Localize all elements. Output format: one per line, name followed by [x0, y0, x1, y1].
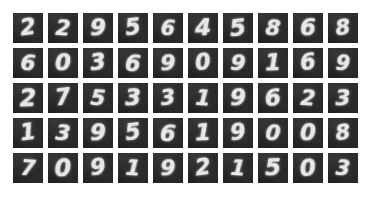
digit-glyph: 2 [188, 153, 218, 183]
digit-glyph: 6 [293, 13, 323, 43]
digit-glyph: 2 [13, 83, 43, 113]
digit-glyph: 8 [328, 118, 358, 148]
digit-tile: 0 [258, 118, 288, 148]
digit-glyph: 5 [223, 13, 253, 43]
digit-tile: 2 [13, 13, 43, 43]
digit-tile: 1 [13, 118, 43, 148]
digit-tile: 5 [118, 118, 148, 148]
digit-grid-figure: 2295645868603690916927533196231395619008… [0, 0, 373, 203]
digit-tile: 6 [293, 13, 323, 43]
digit-glyph: 9 [83, 13, 113, 43]
digit-glyph: 1 [188, 118, 218, 148]
digit-tile: 2 [188, 153, 218, 183]
digit-tile: 3 [83, 48, 113, 78]
digit-glyph: 5 [118, 13, 148, 43]
digit-glyph: 5 [118, 118, 148, 148]
digit-glyph: 6 [118, 48, 148, 78]
digit-tile: 9 [223, 48, 253, 78]
digit-glyph: 3 [328, 83, 358, 113]
digit-tile: 9 [153, 153, 183, 183]
digit-tile: 9 [328, 48, 358, 78]
digit-tile: 6 [153, 118, 183, 148]
digit-tile: 5 [118, 13, 148, 43]
digit-tile: 0 [48, 153, 78, 183]
digit-glyph: 1 [258, 48, 288, 78]
digit-glyph: 4 [188, 13, 218, 43]
digit-glyph: 9 [83, 118, 113, 148]
digit-glyph: 2 [48, 13, 78, 43]
digit-glyph: 9 [153, 153, 183, 183]
digit-tile: 9 [153, 48, 183, 78]
digit-tile: 6 [153, 13, 183, 43]
digit-glyph: 3 [83, 48, 113, 78]
digit-glyph: 3 [328, 153, 358, 183]
digit-glyph: 5 [258, 153, 288, 183]
digit-tile: 3 [48, 118, 78, 148]
digit-glyph: 9 [223, 118, 253, 148]
digit-tile: 1 [188, 83, 218, 113]
digit-glyph: 0 [188, 48, 218, 78]
digit-grid: 2295645868603690916927533196231395619008… [13, 13, 358, 183]
digit-glyph: 9 [223, 83, 253, 113]
digit-glyph: 2 [13, 13, 43, 43]
digit-tile: 1 [188, 118, 218, 148]
digit-tile: 1 [223, 153, 253, 183]
digit-tile: 3 [118, 83, 148, 113]
digit-tile: 6 [13, 48, 43, 78]
digit-glyph: 9 [223, 48, 253, 78]
digit-tile: 3 [328, 153, 358, 183]
digit-glyph: 0 [293, 153, 323, 183]
digit-tile: 8 [258, 13, 288, 43]
digit-glyph: 2 [293, 83, 323, 113]
digit-glyph: 6 [258, 83, 288, 113]
digit-tile: 3 [153, 83, 183, 113]
digit-tile: 4 [188, 13, 218, 43]
digit-tile: 8 [328, 13, 358, 43]
digit-glyph: 9 [328, 48, 358, 78]
digit-tile: 6 [118, 48, 148, 78]
digit-glyph: 0 [48, 153, 78, 183]
digit-tile: 2 [293, 83, 323, 113]
digit-glyph: 0 [258, 118, 288, 148]
digit-glyph: 6 [293, 48, 323, 78]
digit-tile: 1 [118, 153, 148, 183]
digit-glyph: 0 [48, 48, 78, 78]
digit-tile: 7 [48, 83, 78, 113]
digit-tile: 9 [83, 118, 113, 148]
digit-glyph: 3 [118, 83, 148, 113]
digit-glyph: 6 [153, 118, 183, 148]
digit-glyph: 1 [13, 118, 43, 148]
digit-tile: 6 [258, 83, 288, 113]
digit-glyph: 1 [223, 153, 253, 183]
digit-tile: 9 [83, 13, 113, 43]
digit-glyph: 0 [293, 118, 323, 148]
digit-glyph: 7 [48, 83, 78, 113]
digit-glyph: 5 [83, 83, 113, 113]
digit-glyph: 1 [118, 153, 148, 183]
digit-tile: 2 [13, 83, 43, 113]
digit-tile: 8 [328, 118, 358, 148]
digit-tile: 3 [328, 83, 358, 113]
digit-glyph: 8 [258, 13, 288, 43]
digit-tile: 2 [48, 13, 78, 43]
digit-glyph: 6 [13, 48, 43, 78]
digit-tile: 0 [293, 153, 323, 183]
digit-tile: 5 [223, 13, 253, 43]
digit-tile: 5 [258, 153, 288, 183]
digit-glyph: 9 [83, 153, 113, 183]
digit-tile: 0 [188, 48, 218, 78]
digit-tile: 7 [13, 153, 43, 183]
digit-glyph: 7 [13, 153, 43, 183]
digit-tile: 0 [48, 48, 78, 78]
digit-tile: 6 [293, 48, 323, 78]
digit-tile: 9 [223, 118, 253, 148]
digit-glyph: 8 [328, 13, 358, 43]
digit-tile: 5 [83, 83, 113, 113]
digit-glyph: 3 [153, 83, 183, 113]
digit-glyph: 6 [153, 13, 183, 43]
digit-glyph: 1 [188, 83, 218, 113]
digit-tile: 9 [83, 153, 113, 183]
digit-tile: 1 [258, 48, 288, 78]
digit-tile: 0 [293, 118, 323, 148]
digit-glyph: 9 [153, 48, 183, 78]
